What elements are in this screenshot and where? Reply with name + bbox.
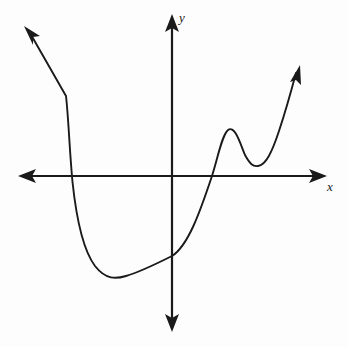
graph-figure: x y <box>0 0 348 347</box>
function-curve <box>30 33 296 278</box>
x-axis-label: x <box>327 180 333 193</box>
footer-scan-artifact <box>55 336 305 344</box>
y-axis-label: y <box>179 11 185 24</box>
curve-right-end-arrow-icon <box>290 65 301 85</box>
curve-left-end-arrow-icon <box>24 26 40 45</box>
coordinate-plane-svg <box>0 0 348 347</box>
